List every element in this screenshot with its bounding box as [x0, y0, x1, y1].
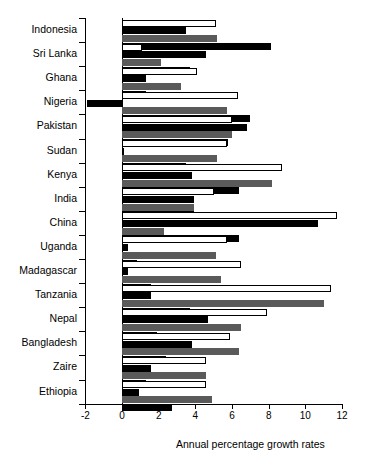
bar [122, 212, 337, 219]
y-axis-tick [79, 404, 85, 405]
x-axis-tick-label: 8 [257, 410, 281, 422]
bar [122, 75, 146, 82]
bar [122, 27, 186, 34]
category-label: Nepal [0, 312, 77, 324]
bar [122, 252, 216, 259]
bar [122, 300, 324, 307]
x-axis-tick [305, 404, 306, 409]
bar [122, 180, 272, 187]
category-label: Sudan [0, 144, 77, 156]
category-label: Ethiopia [0, 385, 77, 397]
bar [87, 100, 122, 107]
bar [122, 68, 197, 75]
bar [122, 396, 212, 403]
bar [122, 140, 227, 147]
bar [122, 131, 232, 138]
bar [122, 164, 282, 171]
bar [122, 365, 151, 372]
bar [122, 172, 192, 179]
bar [122, 116, 232, 123]
x-axis-tick-label: 2 [147, 410, 171, 422]
bar [122, 59, 161, 66]
bar [122, 43, 271, 50]
x-axis-tick-label: 0 [110, 410, 134, 422]
bar [122, 341, 192, 348]
bar [122, 324, 241, 331]
category-label: Ghana [0, 71, 77, 83]
x-axis-tick [232, 404, 233, 409]
x-axis-tick [85, 404, 86, 409]
bar [122, 51, 206, 58]
x-axis-tick-label: -2 [73, 410, 97, 422]
x-axis-tick [342, 404, 343, 409]
bar [122, 220, 318, 227]
bar [122, 292, 151, 299]
bar [122, 404, 172, 411]
bar [122, 372, 206, 379]
category-label: Kenya [0, 168, 77, 180]
bar [122, 268, 128, 275]
category-label: Nigeria [0, 95, 77, 107]
bar [122, 148, 124, 155]
bar [122, 348, 239, 355]
x-axis-title: Annual percentage growth rates [176, 438, 325, 450]
bar [122, 357, 206, 364]
x-axis-tick-label: 10 [293, 410, 317, 422]
category-label: Indonesia [0, 23, 77, 35]
category-label: Tanzania [0, 288, 77, 300]
bar [122, 44, 142, 51]
bar [122, 228, 164, 235]
bar-chart: IndonesiaSri LankaGhanaNigeriaPakistanSu… [0, 0, 369, 474]
x-axis-tick-label: 4 [183, 410, 207, 422]
bar [122, 244, 128, 251]
category-label: Bangladesh [0, 336, 77, 348]
bar [122, 276, 221, 283]
bar [122, 333, 230, 340]
bar [122, 316, 208, 323]
category-label: China [0, 216, 77, 228]
bar [122, 124, 247, 131]
bar [122, 92, 238, 99]
category-label: Pakistan [0, 119, 77, 131]
plot-area [85, 18, 342, 404]
x-axis-tick-label: 12 [330, 410, 354, 422]
bar [122, 204, 194, 211]
bar [122, 107, 227, 114]
bar [122, 389, 139, 396]
x-axis-tick [269, 404, 270, 409]
category-label: India [0, 192, 77, 204]
bar [122, 309, 267, 316]
bar [122, 381, 206, 388]
bar [122, 35, 217, 42]
bar [122, 83, 181, 90]
bar [122, 20, 216, 27]
category-label: Madagascar [0, 264, 77, 276]
bar [122, 236, 227, 243]
category-labels: IndonesiaSri LankaGhanaNigeriaPakistanSu… [0, 0, 77, 474]
bar [122, 155, 217, 162]
x-axis-tick-label: 6 [220, 410, 244, 422]
bar [122, 188, 214, 195]
x-axis-tick [195, 404, 196, 409]
bar [122, 285, 331, 292]
bar [122, 196, 194, 203]
category-label: Sri Lanka [0, 47, 77, 59]
category-label: Uganda [0, 240, 77, 252]
bar [122, 261, 241, 268]
category-label: Zaire [0, 360, 77, 372]
